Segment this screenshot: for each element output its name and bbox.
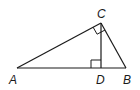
triangle-diagram: A B C D: [0, 0, 140, 90]
right-angle-marker-d: [91, 60, 101, 68]
label-a: A: [8, 73, 17, 87]
label-b: B: [123, 73, 131, 87]
side-ac: [17, 23, 101, 68]
label-c: C: [97, 7, 106, 21]
right-angle-marker-c: [93, 27, 105, 34]
label-d: D: [96, 73, 105, 87]
